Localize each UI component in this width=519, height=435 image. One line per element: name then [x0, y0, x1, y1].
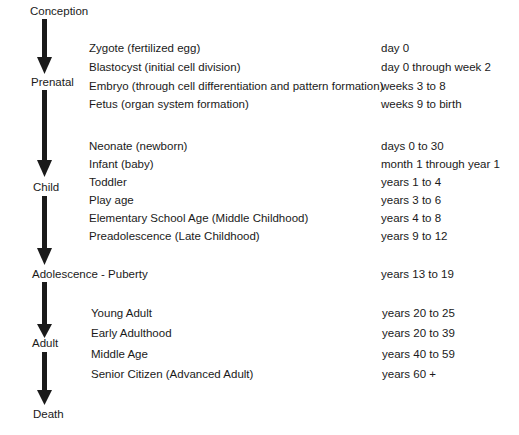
substage-range: day 0 through week 2	[381, 60, 491, 74]
substage-name: Neonate (newborn)	[89, 139, 187, 153]
substage-name: Toddler	[89, 175, 127, 189]
substage-name: Senior Citizen (Advanced Adult)	[91, 367, 253, 381]
arrow-down-icon	[37, 196, 52, 265]
substage-range: years 20 to 39	[382, 326, 455, 340]
substage-range: day 0	[381, 41, 409, 55]
arrow-down-icon	[37, 90, 52, 177]
substage-range: years 9 to 12	[381, 229, 447, 243]
substage-range: days 0 to 30	[381, 139, 444, 153]
stage-conception: Conception	[30, 4, 88, 18]
substage-range: years 4 to 8	[381, 211, 441, 225]
substage-name: Early Adulthood	[91, 326, 172, 340]
substage-range: month 1 through year 1	[381, 157, 500, 171]
substage-range: years 40 to 59	[382, 347, 455, 361]
substage-name: Preadolescence (Late Childhood)	[89, 229, 260, 243]
substage-range: weeks 9 to birth	[381, 97, 462, 111]
substage-range: years 3 to 6	[381, 193, 441, 207]
substage-name: Play age	[89, 193, 134, 207]
arrow-down-icon	[37, 19, 52, 74]
adolescence-range: years 13 to 19	[381, 267, 454, 281]
substage-name: Elementary School Age (Middle Childhood)	[89, 211, 308, 225]
stage-prenatal: Prenatal	[31, 75, 74, 89]
substage-name: Embryo (through cell differentiation and…	[89, 79, 383, 93]
substage-name: Fetus (organ system formation)	[89, 97, 249, 111]
substage-name: Blastocyst (initial cell division)	[89, 60, 240, 74]
substage-range: weeks 3 to 8	[381, 79, 446, 93]
stage-death: Death	[33, 407, 64, 421]
arrow-down-icon	[37, 282, 52, 338]
substage-name: Zygote (fertilized egg)	[89, 41, 200, 55]
substage-range: years 1 to 4	[381, 175, 441, 189]
substage-name: Middle Age	[91, 347, 148, 361]
substage-range: years 20 to 25	[382, 306, 455, 320]
stage-adolescence: Adolescence - Puberty	[32, 267, 148, 281]
substage-name: Young Adult	[91, 306, 152, 320]
stage-child: Child	[33, 180, 59, 194]
stage-adult: Adult	[32, 336, 58, 350]
substage-name: Infant (baby)	[89, 157, 154, 171]
arrow-down-icon	[37, 352, 52, 405]
substage-range: years 60 +	[382, 367, 436, 381]
